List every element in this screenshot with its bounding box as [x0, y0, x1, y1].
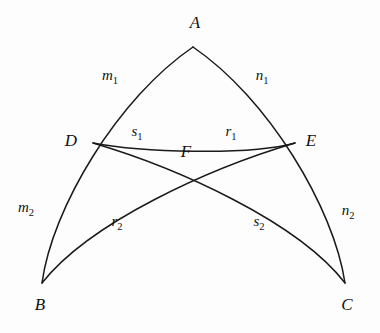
segment-label-r2: r2 — [111, 213, 122, 232]
segment-base-n1: n — [256, 67, 264, 83]
segment-sub-s2: 2 — [259, 221, 264, 232]
segment-base-m2: m — [18, 199, 29, 215]
segment-base-n2: n — [342, 202, 350, 218]
side-AC-arc — [193, 47, 345, 283]
segment-label-s1: s1 — [131, 123, 142, 142]
segment-label-r1: r1 — [225, 123, 236, 142]
segment-label-n1: n1 — [256, 67, 269, 86]
segment-sub-s1: 1 — [137, 131, 142, 142]
vertex-label-F: F — [180, 142, 192, 161]
geometric-figure: A B C D E F m1 n1 m2 n2 s1 — [0, 0, 380, 333]
vertex-label-B: B — [35, 295, 46, 314]
vertex-label-group: A B C D E F — [35, 13, 354, 314]
arc-group — [42, 47, 345, 283]
segment-base-m1: m — [102, 67, 113, 83]
segment-sub-m1: 1 — [113, 75, 118, 86]
chord-DE-arc — [93, 143, 295, 151]
vertex-label-E: E — [305, 131, 317, 150]
segment-label-m2: m2 — [18, 199, 34, 218]
segment-sub-m2: 2 — [29, 207, 34, 218]
segment-sub-r2: 2 — [117, 221, 122, 232]
segment-sub-n1: 1 — [263, 75, 268, 86]
vertex-label-D: D — [64, 131, 78, 150]
segment-label-n2: n2 — [342, 202, 355, 221]
segment-sub-n2: 2 — [349, 210, 354, 221]
diagram-canvas: A B C D E F m1 n1 m2 n2 s1 — [0, 0, 380, 333]
vertex-label-C: C — [341, 295, 353, 314]
vertex-label-A: A — [189, 13, 201, 32]
segment-label-m1: m1 — [102, 67, 118, 86]
segment-sub-r1: 1 — [231, 131, 236, 142]
